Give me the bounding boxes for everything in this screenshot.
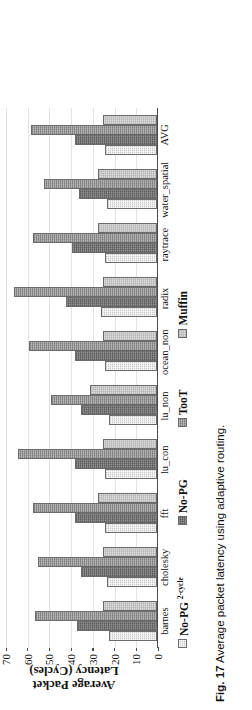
x-axis-category-label: ocean_non (159, 325, 170, 379)
bar (81, 405, 157, 415)
bar (103, 439, 157, 449)
x-axis-category-label: cholesky (159, 540, 170, 594)
bar (29, 341, 157, 351)
bar (79, 189, 157, 199)
bar-group (6, 108, 157, 162)
figure-caption: Fig. 17 Average packet latency using ada… (214, 102, 226, 702)
x-axis-category-label: raytrace (159, 218, 170, 272)
bar (75, 135, 158, 145)
bar (75, 351, 158, 361)
x-axis-category-label: radix (159, 272, 170, 326)
y-axis-tick-label: 40 (65, 654, 77, 665)
bar (105, 469, 157, 479)
y-axis-tick-label: 10 (130, 654, 142, 665)
bar (38, 557, 157, 567)
figure-caption-text: Average packet latency using adaptive ro… (214, 425, 226, 663)
legend-item[interactable]: No-PG 2-cycle (176, 577, 190, 648)
legend-swatch (178, 516, 187, 525)
chart-area: Average Packet Latency (Cycles) 01020304… (0, 90, 200, 710)
bar (103, 277, 157, 287)
bar (81, 567, 157, 577)
legend-item[interactable]: Muffin (177, 291, 189, 338)
bar (33, 233, 157, 243)
y-axis-tick-label: 30 (87, 654, 99, 665)
bar-group (6, 432, 157, 486)
bar (103, 547, 157, 557)
x-axis-category-label: water_spatial (159, 162, 170, 218)
bar-group (6, 378, 157, 432)
bar (90, 385, 157, 395)
x-axis-category-label: fft (159, 487, 170, 541)
bar (75, 459, 158, 469)
bar (103, 115, 157, 125)
figure-page: Average Packet Latency (Cycles) 01020304… (0, 0, 252, 710)
plot-region (6, 108, 158, 648)
bar (35, 611, 157, 621)
legend-item[interactable]: TooT (177, 390, 189, 428)
y-axis-tick-label: 60 (22, 654, 34, 665)
legend-label-superscript: 2-cycle (176, 577, 185, 599)
x-axis-category-label: lu_con (159, 433, 170, 487)
bar (75, 513, 158, 523)
legend-label: No-PG (177, 479, 189, 513)
bar-group (6, 324, 157, 378)
legend-label: Muffin (177, 291, 189, 326)
bar (105, 361, 157, 371)
bar (66, 297, 157, 307)
bar-groups (6, 108, 157, 648)
bar (14, 287, 157, 297)
chart-legend: No-PG 2-cycleNo-PGTooTMuffin (176, 108, 190, 648)
bar (101, 307, 157, 317)
y-axis-tick-label: 50 (43, 654, 55, 665)
bar (98, 223, 157, 233)
figure-caption-number: Fig. 17 (214, 666, 226, 702)
bar (103, 601, 157, 611)
bar (44, 179, 157, 189)
legend-label: TooT (177, 390, 189, 416)
legend-label: No-PG 2-cycle (176, 577, 190, 636)
bar (33, 503, 157, 513)
y-axis-tick-label: 20 (109, 654, 121, 665)
y-axis-tick-labels: 010203040506070 (6, 648, 158, 710)
legend-item[interactable]: No-PG (177, 479, 189, 525)
bar (107, 577, 157, 587)
legend-swatch (178, 329, 187, 338)
y-axis-tick-label: 0 (152, 654, 164, 660)
y-axis-tick-label: 70 (0, 654, 12, 665)
bar (18, 449, 157, 459)
bar-group (6, 270, 157, 324)
x-axis-category-label: lu_non (159, 379, 170, 433)
bar (31, 125, 157, 135)
bar (98, 169, 157, 179)
bar (51, 395, 157, 405)
x-axis-category-label: AVG (159, 108, 170, 162)
x-axis-category-label: barnes (159, 594, 170, 648)
bar (109, 415, 157, 425)
bar-group (6, 486, 157, 540)
bar (98, 493, 157, 503)
bar-group (6, 594, 157, 648)
legend-swatch (178, 418, 187, 427)
bar (107, 199, 157, 209)
rotated-figure: Average Packet Latency (Cycles) 01020304… (0, 0, 252, 710)
bar-group (6, 540, 157, 594)
bar (105, 523, 157, 533)
bar-group (6, 162, 157, 216)
bar (105, 145, 157, 155)
legend-swatch (178, 639, 187, 648)
bar (77, 621, 157, 631)
bar (109, 631, 157, 641)
x-axis-category-labels: barnescholeskyfftlu_conlu_nonocean_nonra… (159, 108, 170, 648)
bar (103, 331, 157, 341)
bar-group (6, 216, 157, 270)
bar (105, 253, 157, 263)
bar (72, 243, 157, 253)
